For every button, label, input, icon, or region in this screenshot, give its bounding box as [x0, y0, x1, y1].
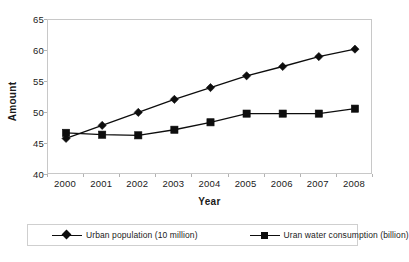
x-tick-label: 2002 — [126, 178, 148, 189]
y-tick-label: 40 — [22, 169, 44, 180]
legend-item-urban-population: Urban population (10 million) — [52, 225, 198, 245]
legend-label-urban-population: Urban population (10 million) — [86, 230, 198, 240]
x-axis-tick-labels: 200020012002200320042005200620072008 — [47, 178, 372, 192]
plot-area — [47, 19, 372, 174]
data-point-diamond — [279, 62, 287, 70]
x-tick-mark — [119, 174, 120, 177]
x-tick-mark — [155, 174, 156, 177]
data-point-diamond — [98, 121, 106, 129]
y-axis-title-label: Amount — [8, 81, 19, 121]
legend-item-water-consumption: Uran water consumption (billion) — [250, 225, 409, 245]
x-tick-label: 2006 — [271, 178, 293, 189]
square-marker-icon — [250, 230, 280, 240]
x-tick-mark — [191, 174, 192, 177]
x-tick-label: 2008 — [343, 178, 365, 189]
data-point-square — [62, 129, 69, 136]
data-point-diamond — [134, 108, 142, 116]
data-point-diamond — [315, 52, 323, 60]
data-point-square — [279, 110, 286, 117]
x-tick-label: 2000 — [54, 178, 76, 189]
diamond-marker-icon — [52, 230, 82, 240]
series-water-consumption — [62, 105, 358, 139]
x-tick-label: 2003 — [162, 178, 184, 189]
x-tick-label: 2004 — [199, 178, 221, 189]
y-tick-label: 60 — [22, 45, 44, 56]
x-tick-mark — [336, 174, 337, 177]
y-tick-label: 65 — [22, 14, 44, 25]
legend-label-water-consumption: Uran water consumption (billion) — [284, 230, 409, 240]
x-tick-mark — [300, 174, 301, 177]
data-point-square — [99, 131, 106, 138]
data-point-diamond — [206, 83, 214, 91]
y-tick-label: 45 — [22, 138, 44, 149]
plot-svg — [48, 20, 373, 175]
data-point-diamond — [351, 45, 359, 53]
data-point-square — [207, 119, 214, 126]
x-tick-label: 2007 — [307, 178, 329, 189]
x-tick-mark — [372, 174, 373, 177]
data-point-square — [135, 132, 142, 139]
data-point-square — [171, 126, 178, 133]
data-point-square — [315, 110, 322, 117]
y-tick-label: 50 — [22, 107, 44, 118]
x-tick-mark — [83, 174, 84, 177]
x-tick-label: 2001 — [90, 178, 112, 189]
series-urban-population — [62, 45, 359, 142]
data-point-diamond — [243, 72, 251, 80]
data-point-diamond — [170, 95, 178, 103]
y-tick-label: 55 — [22, 76, 44, 87]
chart-legend: Urban population (10 million) Uran water… — [27, 224, 358, 246]
x-axis-title: Year — [47, 196, 372, 207]
x-tick-mark — [47, 174, 48, 177]
data-point-square — [243, 110, 250, 117]
x-tick-mark — [228, 174, 229, 177]
x-tick-label: 2005 — [235, 178, 257, 189]
x-tick-mark — [264, 174, 265, 177]
data-point-square — [351, 105, 358, 112]
y-axis-ticks: 404550556065 — [20, 0, 44, 262]
